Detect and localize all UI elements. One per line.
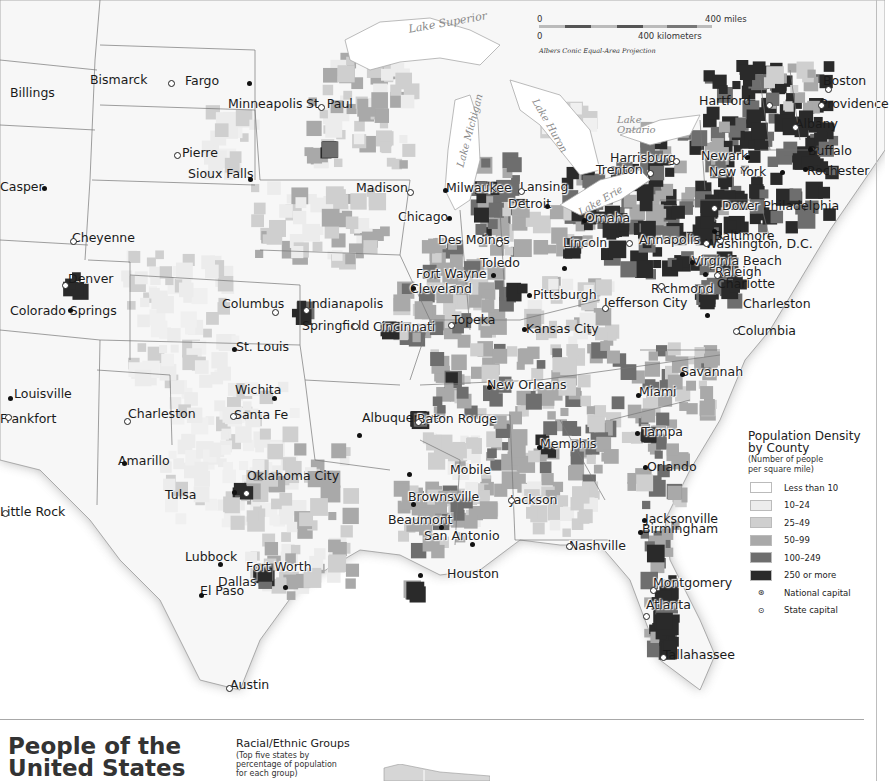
county-cell bbox=[135, 370, 152, 387]
racial-sub-1: (Top five states by bbox=[236, 751, 356, 760]
city-label: Topeka bbox=[452, 313, 495, 327]
city-dot-icon bbox=[411, 502, 416, 507]
state-capital-icon bbox=[124, 418, 131, 425]
city-dot-icon bbox=[745, 155, 750, 160]
county-cell bbox=[686, 403, 697, 414]
state-capital-icon bbox=[243, 490, 250, 497]
city-dot-icon bbox=[642, 518, 647, 523]
legend-subtitle-1: (Number of people bbox=[748, 455, 878, 464]
county-cell bbox=[381, 69, 393, 81]
legend-swatch bbox=[750, 482, 772, 493]
state-capital-icon bbox=[2, 510, 9, 517]
county-cell bbox=[571, 452, 584, 465]
state-capital-icon bbox=[733, 328, 740, 335]
county-cell bbox=[313, 242, 323, 252]
county-cell bbox=[747, 110, 761, 124]
county-cell bbox=[346, 216, 359, 229]
county-cell bbox=[794, 92, 805, 103]
county-cell bbox=[328, 512, 336, 520]
county-cell bbox=[306, 121, 321, 136]
city-label: Cheyenne bbox=[72, 231, 135, 245]
city-label: Lincoln bbox=[563, 236, 607, 250]
county-cell bbox=[350, 193, 366, 209]
county-cell bbox=[509, 411, 522, 424]
county-cell bbox=[640, 198, 653, 211]
legend-class-label: 250 or more bbox=[784, 570, 836, 580]
county-cell bbox=[647, 545, 665, 563]
city-label: Fargo bbox=[185, 74, 219, 88]
state-capital-icon bbox=[168, 80, 175, 87]
city-label: Trenton bbox=[596, 163, 643, 177]
city-label: Savannah bbox=[681, 365, 743, 379]
scale-km-label: 400 kilometers bbox=[638, 31, 702, 41]
city-label: Billings bbox=[10, 86, 55, 100]
county-cell bbox=[203, 329, 212, 338]
county-cell bbox=[265, 542, 278, 555]
county-cell bbox=[608, 332, 617, 341]
city-label: Montgomery bbox=[653, 576, 732, 590]
city-label: Denver bbox=[68, 272, 113, 286]
county-cell bbox=[785, 103, 794, 112]
city-dot-icon bbox=[527, 293, 532, 298]
legend-swatch bbox=[750, 517, 772, 528]
county-cell bbox=[345, 578, 355, 588]
city-label: Columbia bbox=[737, 324, 796, 338]
county-cell bbox=[511, 175, 520, 184]
city-label: Buffalo bbox=[808, 144, 852, 158]
city-label: Jefferson City bbox=[604, 296, 687, 310]
county-cell bbox=[607, 351, 620, 364]
city-dot-icon bbox=[232, 490, 237, 495]
county-cell bbox=[218, 276, 233, 291]
city-dot-icon bbox=[218, 562, 223, 567]
county-cell bbox=[138, 343, 147, 352]
county-cell bbox=[176, 263, 193, 280]
legend-class: 10–24 bbox=[748, 497, 878, 515]
county-cell bbox=[184, 392, 198, 406]
county-cell bbox=[325, 121, 342, 138]
city-label: Wichita bbox=[235, 383, 281, 397]
county-cell bbox=[402, 144, 415, 157]
city-dot-icon bbox=[232, 347, 237, 352]
county-cell bbox=[160, 364, 177, 381]
county-cell bbox=[205, 265, 219, 279]
state-capital-icon bbox=[647, 170, 654, 177]
city-label: Austin bbox=[230, 678, 269, 692]
county-cell bbox=[609, 241, 627, 259]
county-cell bbox=[596, 279, 612, 295]
county-cell bbox=[587, 455, 596, 464]
county-cell bbox=[247, 510, 258, 521]
city-label: Charleston bbox=[128, 407, 196, 421]
county-cell bbox=[474, 208, 489, 223]
section-title: People of the United States bbox=[8, 735, 185, 779]
city-dot-icon bbox=[705, 313, 710, 318]
county-cell bbox=[430, 352, 444, 366]
city-dot-icon bbox=[407, 472, 412, 477]
city-label: Rochester bbox=[807, 164, 870, 178]
county-cell bbox=[217, 367, 231, 381]
city-dot-icon bbox=[199, 593, 204, 598]
county-cell bbox=[263, 234, 272, 243]
county-cell bbox=[260, 429, 271, 440]
county-cell bbox=[173, 458, 184, 469]
city-label: Minneapolis bbox=[228, 97, 303, 111]
legend-class: Less than 10 bbox=[748, 479, 878, 497]
city-label: Hartford bbox=[699, 94, 751, 108]
city-dot-icon bbox=[248, 177, 253, 182]
city-dot-icon bbox=[808, 147, 813, 152]
county-cell bbox=[469, 295, 482, 308]
county-cell bbox=[254, 203, 266, 215]
state-capital-icon bbox=[566, 543, 573, 550]
city-dot-icon bbox=[418, 573, 423, 578]
county-cell bbox=[137, 315, 150, 328]
county-cell bbox=[432, 253, 442, 263]
state-capital-icon bbox=[318, 104, 325, 111]
county-cell bbox=[223, 462, 233, 472]
county-cell bbox=[480, 501, 498, 519]
state-capital-icon bbox=[643, 613, 650, 620]
city-dot-icon bbox=[712, 229, 717, 234]
city-label: Baltimore bbox=[714, 229, 774, 243]
county-cell bbox=[345, 254, 355, 264]
county-cell bbox=[155, 250, 164, 259]
county-cell bbox=[511, 429, 527, 445]
state-capital-icon bbox=[673, 158, 680, 165]
